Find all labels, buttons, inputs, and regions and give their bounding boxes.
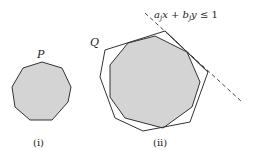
figure-canvas: P (i) Q (ii) ajx + bjy ≤ 1: [0, 0, 254, 157]
caption-ii: (ii): [153, 137, 167, 148]
caption-i: (i): [33, 137, 44, 148]
diagram-svg: P (i) Q (ii) ajx + bjy ≤ 1: [0, 0, 254, 157]
label-p: P: [36, 48, 45, 61]
polygon-inner-shaded: [110, 36, 200, 128]
polygon-p: [12, 62, 71, 120]
label-q: Q: [90, 36, 99, 49]
constraint-label: ajx + bjy ≤ 1: [154, 9, 218, 22]
